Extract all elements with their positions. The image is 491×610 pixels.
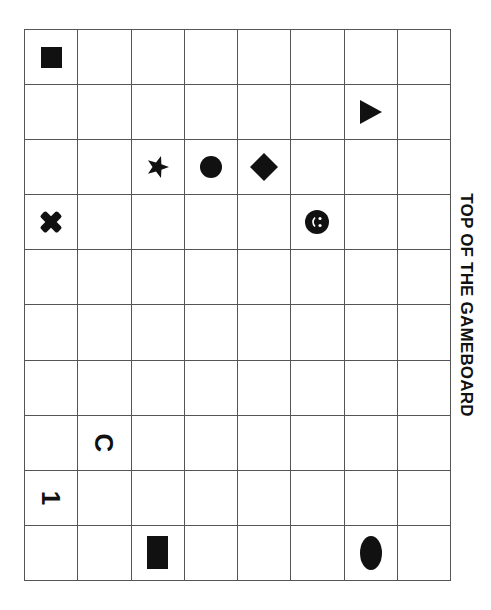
board-cell[interactable]	[291, 140, 344, 195]
board-cell[interactable]	[132, 85, 185, 140]
board-cell[interactable]	[238, 250, 291, 305]
board-cell[interactable]	[132, 305, 185, 360]
board-cell[interactable]: 1	[25, 471, 78, 526]
board-cell[interactable]	[398, 416, 451, 471]
board-cell[interactable]	[78, 195, 131, 250]
board-cell[interactable]	[25, 195, 78, 250]
board-cell[interactable]	[398, 140, 451, 195]
board-cell[interactable]	[25, 361, 78, 416]
board-cell[interactable]	[291, 361, 344, 416]
board-cell[interactable]	[132, 471, 185, 526]
board-cell[interactable]	[398, 30, 451, 85]
board-cell[interactable]	[238, 416, 291, 471]
board-cell[interactable]	[291, 305, 344, 360]
board-cell[interactable]	[185, 471, 238, 526]
board-cell[interactable]	[25, 30, 78, 85]
board-cell[interactable]	[345, 30, 398, 85]
board-cell[interactable]	[185, 30, 238, 85]
board-cell[interactable]: C	[78, 416, 131, 471]
board-top-label: TOP OF THE GAMEBOARD	[456, 193, 476, 416]
circle-piece-icon[interactable]	[200, 156, 222, 178]
board-cell[interactable]	[238, 305, 291, 360]
letter-c-piece-icon[interactable]: C	[91, 433, 117, 452]
board-cell[interactable]	[291, 85, 344, 140]
oval-piece-icon[interactable]	[360, 536, 382, 570]
board-cell[interactable]	[185, 85, 238, 140]
x-piece-icon[interactable]	[39, 210, 63, 234]
rectangle-piece-icon[interactable]	[147, 536, 168, 569]
board-cell[interactable]	[345, 85, 398, 140]
board-cell[interactable]	[132, 250, 185, 305]
board-cell[interactable]	[25, 305, 78, 360]
board-cell[interactable]	[132, 416, 185, 471]
board-cell[interactable]	[238, 471, 291, 526]
board-cell[interactable]	[238, 30, 291, 85]
board-cell[interactable]	[345, 140, 398, 195]
board-cell[interactable]	[78, 250, 131, 305]
board-cell[interactable]	[345, 471, 398, 526]
board-cell[interactable]	[291, 250, 344, 305]
board-cell[interactable]	[132, 140, 185, 195]
board-cell[interactable]	[398, 250, 451, 305]
board-cell[interactable]	[78, 140, 131, 195]
board-cell[interactable]	[291, 416, 344, 471]
board-cell[interactable]	[345, 361, 398, 416]
board-cell[interactable]	[398, 195, 451, 250]
board-cell[interactable]	[25, 416, 78, 471]
board-cell[interactable]	[398, 305, 451, 360]
board-cell[interactable]	[185, 140, 238, 195]
board-cell[interactable]	[398, 526, 451, 581]
board-cell[interactable]	[78, 526, 131, 581]
board-cell[interactable]	[132, 361, 185, 416]
board-cell[interactable]	[185, 195, 238, 250]
board-cell[interactable]	[25, 526, 78, 581]
board-cell[interactable]	[185, 416, 238, 471]
board-cell[interactable]	[132, 526, 185, 581]
board-cell[interactable]	[185, 250, 238, 305]
board-cell[interactable]	[238, 526, 291, 581]
board-cell[interactable]	[25, 250, 78, 305]
board-cell[interactable]	[78, 471, 131, 526]
triangle-piece-icon[interactable]	[360, 100, 382, 124]
gameboard: C1	[24, 29, 451, 581]
board-cell[interactable]	[398, 471, 451, 526]
number-1-piece-icon[interactable]: 1	[38, 491, 64, 505]
board-cell[interactable]	[132, 195, 185, 250]
square-piece-icon[interactable]	[41, 47, 62, 68]
board-cell[interactable]	[238, 361, 291, 416]
board-cell[interactable]	[345, 195, 398, 250]
board-cell[interactable]	[291, 30, 344, 85]
board-cell[interactable]	[398, 85, 451, 140]
board-cell[interactable]	[78, 85, 131, 140]
board-cell[interactable]	[78, 30, 131, 85]
board-cell[interactable]	[25, 140, 78, 195]
board-cell[interactable]	[345, 305, 398, 360]
board-cell[interactable]	[345, 250, 398, 305]
board-cell[interactable]	[238, 140, 291, 195]
board-cell[interactable]	[291, 526, 344, 581]
board-cell[interactable]	[345, 526, 398, 581]
board-cell[interactable]	[238, 85, 291, 140]
smiley-piece-icon[interactable]	[305, 210, 329, 234]
board-cell[interactable]	[78, 361, 131, 416]
board-cell[interactable]	[185, 361, 238, 416]
board-cell[interactable]	[291, 471, 344, 526]
board-cell[interactable]	[291, 195, 344, 250]
board-cell[interactable]	[345, 416, 398, 471]
board-cell[interactable]	[238, 195, 291, 250]
board-cell[interactable]	[78, 305, 131, 360]
star-piece-icon[interactable]	[146, 155, 170, 179]
board-cell[interactable]	[398, 361, 451, 416]
board-cell[interactable]	[132, 30, 185, 85]
board-cell[interactable]	[185, 526, 238, 581]
diamond-piece-icon[interactable]	[250, 153, 278, 181]
board-cell[interactable]	[25, 85, 78, 140]
board-cell[interactable]	[185, 305, 238, 360]
